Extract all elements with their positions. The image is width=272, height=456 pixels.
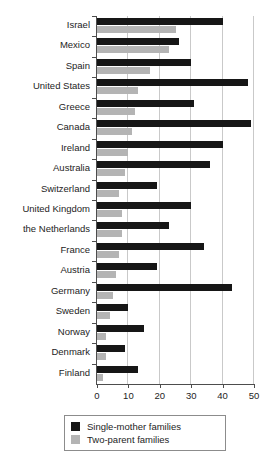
- bar-two-parent-families: [97, 210, 122, 217]
- bar-row: Denmark: [0, 343, 272, 363]
- category-label: Israel: [0, 18, 90, 32]
- bar-two-parent-families: [97, 169, 125, 176]
- bar-row: Germany: [0, 282, 272, 302]
- category-tick: [92, 261, 96, 262]
- x-axis-tick: [160, 384, 161, 388]
- bar-two-parent-families: [97, 312, 110, 319]
- category-tick: [92, 180, 96, 181]
- bar-single-mother-families: [97, 38, 179, 45]
- bar-row: Ireland: [0, 139, 272, 159]
- legend-item-two-parent-families: Two-parent families: [71, 433, 219, 446]
- bar-two-parent-families: [97, 149, 128, 156]
- bar-single-mother-families: [97, 366, 138, 373]
- x-axis-tick-label: 0: [82, 390, 112, 401]
- category-label: Norway: [0, 325, 90, 339]
- category-label: Mexico: [0, 38, 90, 52]
- x-axis-tick: [97, 384, 98, 388]
- category-label: Spain: [0, 59, 90, 73]
- category-tick: [92, 302, 96, 303]
- bar-single-mother-families: [97, 120, 251, 127]
- category-tick: [92, 220, 96, 221]
- category-label: Denmark: [0, 345, 90, 359]
- category-tick: [92, 343, 96, 344]
- bar-chart: IsraelMexicoSpainUnited StatesGreeceCana…: [0, 0, 272, 456]
- bar-single-mother-families: [97, 100, 194, 107]
- category-tick: [92, 364, 96, 365]
- category-label: United Kingdom: [0, 202, 90, 216]
- category-label: Sweden: [0, 304, 90, 318]
- bar-two-parent-families: [97, 374, 103, 381]
- category-label: Ireland: [0, 141, 90, 155]
- bar-two-parent-families: [97, 353, 106, 360]
- chart-legend: Single-mother families Two-parent famili…: [64, 415, 226, 451]
- category-label: Greece: [0, 100, 90, 114]
- bar-single-mother-families: [97, 284, 232, 291]
- bar-row: Spain: [0, 57, 272, 77]
- x-axis-tick-label: 50: [239, 390, 269, 401]
- bar-single-mother-families: [97, 141, 223, 148]
- bar-row: United States: [0, 77, 272, 97]
- category-label: the Netherlands: [0, 222, 90, 236]
- bar-single-mother-families: [97, 325, 144, 332]
- bar-row: Israel: [0, 16, 272, 36]
- category-tick: [92, 16, 96, 17]
- category-tick: [92, 57, 96, 58]
- bar-two-parent-families: [97, 292, 113, 299]
- category-tick: [92, 118, 96, 119]
- bar-two-parent-families: [97, 87, 138, 94]
- category-label: France: [0, 243, 90, 257]
- category-label: United States: [0, 79, 90, 93]
- x-axis-tick-label: 40: [208, 390, 238, 401]
- x-axis-tick-label: 20: [145, 390, 175, 401]
- x-axis-tick: [254, 384, 255, 388]
- legend-label: Single-mother families: [87, 420, 181, 433]
- bar-two-parent-families: [97, 333, 106, 340]
- category-tick: [92, 139, 96, 140]
- category-tick: [92, 200, 96, 201]
- bar-single-mother-families: [97, 18, 223, 25]
- bar-single-mother-families: [97, 345, 125, 352]
- bar-single-mother-families: [97, 182, 157, 189]
- bar-row: Switzerland: [0, 180, 272, 200]
- bar-row: United Kingdom: [0, 200, 272, 220]
- bar-single-mother-families: [97, 243, 204, 250]
- bar-single-mother-families: [97, 304, 128, 311]
- bar-row: Finland: [0, 364, 272, 384]
- bar-two-parent-families: [97, 271, 116, 278]
- bar-two-parent-families: [97, 67, 150, 74]
- x-axis-ticks: 01020304050: [0, 384, 272, 404]
- category-label: Germany: [0, 284, 90, 298]
- bar-row: Australia: [0, 159, 272, 179]
- bar-two-parent-families: [97, 108, 135, 115]
- bar-rows: IsraelMexicoSpainUnited StatesGreeceCana…: [0, 16, 272, 384]
- category-label: Finland: [0, 366, 90, 380]
- category-tick: [92, 98, 96, 99]
- bar-single-mother-families: [97, 79, 248, 86]
- category-tick: [92, 77, 96, 78]
- bar-row: Canada: [0, 118, 272, 138]
- bar-row: Mexico: [0, 36, 272, 56]
- category-label: Canada: [0, 120, 90, 134]
- bar-row: Austria: [0, 261, 272, 281]
- bar-single-mother-families: [97, 222, 169, 229]
- legend-swatch-icon: [71, 422, 80, 431]
- bar-single-mother-families: [97, 202, 191, 209]
- bar-two-parent-families: [97, 46, 169, 53]
- category-label: Austria: [0, 263, 90, 277]
- category-label: Switzerland: [0, 182, 90, 196]
- bar-row: France: [0, 241, 272, 261]
- category-tick: [92, 241, 96, 242]
- category-tick: [92, 282, 96, 283]
- bar-two-parent-families: [97, 190, 119, 197]
- x-axis-tick: [191, 384, 192, 388]
- bar-two-parent-families: [97, 251, 119, 258]
- bar-row: the Netherlands: [0, 220, 272, 240]
- legend-item-single-mother-families: Single-mother families: [71, 420, 219, 433]
- legend-label: Two-parent families: [87, 433, 169, 446]
- x-axis-tick-label: 30: [176, 390, 206, 401]
- x-axis-tick: [128, 384, 129, 388]
- category-tick: [92, 323, 96, 324]
- bar-two-parent-families: [97, 128, 132, 135]
- bar-row: Sweden: [0, 302, 272, 322]
- category-label: Australia: [0, 161, 90, 175]
